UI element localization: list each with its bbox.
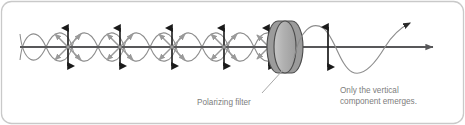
polarizing-filter-disc[interactable] bbox=[267, 21, 303, 73]
vertical-component-label-line1: Only the vertical bbox=[340, 86, 399, 95]
polarizing-filter-label: Polarizing filter bbox=[197, 98, 251, 107]
filter-disc-face bbox=[274, 21, 296, 73]
vertical-component-label-line2: component emerges. bbox=[340, 97, 417, 106]
polarization-figure-panel: Polarizing filter Only the vertical comp… bbox=[0, 0, 465, 125]
polarization-diagram: Polarizing filter Only the vertical comp… bbox=[0, 0, 465, 125]
